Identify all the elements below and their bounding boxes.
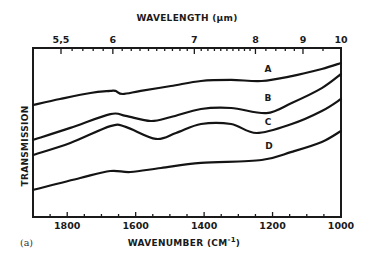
curve-label-c: C <box>265 117 272 127</box>
wavenumber-label-main: WAVENUMBER (CM <box>128 238 228 248</box>
wavenumber-tick-label: 1400 <box>191 220 218 231</box>
wavelength-tick-label: 10 <box>334 34 348 45</box>
wavenumber-tick-label: 1000 <box>328 220 355 231</box>
curve-label-a: A <box>265 64 272 74</box>
wavelength-axis-label: WAVELENGTH (μm) <box>136 13 237 23</box>
curve-label-d: D <box>265 141 272 151</box>
curve-label-b: B <box>265 93 272 103</box>
ir-transmission-chart: WAVELENGTH (μm) 5,5678910 18001600140012… <box>0 0 372 265</box>
curve-a <box>33 63 341 105</box>
wavelength-tick-label: 6 <box>110 34 117 45</box>
wavenumber-tick-label: 1200 <box>259 220 286 231</box>
curve-c <box>33 99 341 155</box>
wavelength-tick-label: 5,5 <box>53 34 70 45</box>
wavenumber-axis-label: WAVENUMBER (CM-1) <box>128 236 241 248</box>
curve-labels: ABCD <box>265 64 273 151</box>
wavelength-tick-label: 9 <box>300 34 307 45</box>
wavenumber-tick-label: 1800 <box>54 220 81 231</box>
transmission-axis-label: TRANSMISSION <box>20 105 30 186</box>
wavenumber-label-close: ) <box>236 238 240 248</box>
wavenumber-tick-label: 1600 <box>122 220 149 231</box>
wavelength-tick-label: 8 <box>252 34 259 45</box>
plot-frame <box>33 48 341 217</box>
panel-label: (a) <box>20 237 33 248</box>
wavelength-axis-title: WAVELENGTH (μm) <box>136 13 237 23</box>
wavenumber-label-superscript: -1 <box>227 236 235 244</box>
wavenumber-axis: 18001600140012001000 <box>50 212 354 231</box>
transmission-curves <box>33 63 341 190</box>
wavelength-tick-label: 7 <box>191 34 198 45</box>
wavelength-axis: 5,5678910 <box>53 34 348 54</box>
